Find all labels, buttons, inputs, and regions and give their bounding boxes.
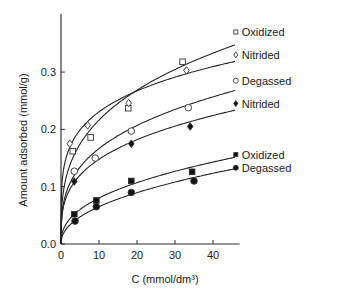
y-tick-label: 0.3 (41, 66, 56, 78)
y-axis-label: Amount adsorbed (mmol/g) (17, 73, 29, 206)
series-label: Nitrided (242, 98, 280, 110)
diamond-marker (234, 101, 238, 107)
square-marker (72, 211, 78, 217)
data-points (67, 59, 197, 224)
square-marker (189, 169, 195, 175)
circle-marker (128, 189, 135, 196)
fit-curve (61, 169, 235, 244)
circle-marker (71, 168, 78, 175)
fit-curves (61, 45, 235, 244)
diamond-marker (234, 52, 238, 58)
series-labels: OxidizedNitridedDegassedNitridedOxidized… (233, 26, 291, 174)
fit-curve (61, 157, 235, 244)
fit-curve (61, 110, 235, 244)
circle-marker (93, 203, 100, 210)
square-marker (88, 135, 94, 141)
square-marker (129, 178, 135, 184)
x-tick-label: 20 (131, 249, 143, 261)
x-tick-label: 40 (207, 249, 219, 261)
x-tick-label: 30 (169, 249, 181, 261)
square-marker (70, 148, 76, 154)
series-label: Degassed (242, 162, 292, 174)
square-marker (180, 59, 186, 65)
circle-marker (233, 78, 238, 83)
y-tick-label: 0.0 (41, 238, 56, 250)
x-tick-label: 0 (58, 249, 64, 261)
series-label: Oxidized (242, 149, 285, 161)
series-label: Nitrided (242, 49, 280, 61)
diamond-marker (67, 140, 73, 148)
fit-curve (61, 45, 235, 244)
fit-curve (61, 91, 235, 245)
circle-marker (92, 155, 99, 162)
square-marker (234, 30, 238, 34)
x-axis-label: C (mmol/dm³) (131, 273, 198, 285)
circle-marker (185, 104, 192, 111)
circle-marker (233, 165, 238, 170)
circle-marker (72, 218, 79, 225)
adsorption-chart: 0102030400.00.10.20.3 OxidizedNitridedDe… (0, 0, 354, 296)
series-label: Oxidized (242, 26, 285, 38)
series-label: Degassed (242, 75, 292, 87)
square-marker (94, 198, 100, 204)
circle-marker (128, 128, 135, 135)
circle-marker (191, 178, 198, 185)
y-tick-label: 0.2 (41, 123, 56, 135)
diamond-marker (187, 123, 193, 131)
fit-curve (61, 61, 235, 244)
square-marker (234, 153, 238, 157)
x-tick-label: 10 (93, 249, 105, 261)
y-tick-label: 0.1 (41, 181, 56, 193)
